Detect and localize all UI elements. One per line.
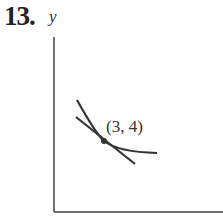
point-marker — [101, 138, 107, 144]
point-label: (3, 4) — [106, 117, 143, 136]
graph: (3, 4) — [0, 0, 223, 224]
